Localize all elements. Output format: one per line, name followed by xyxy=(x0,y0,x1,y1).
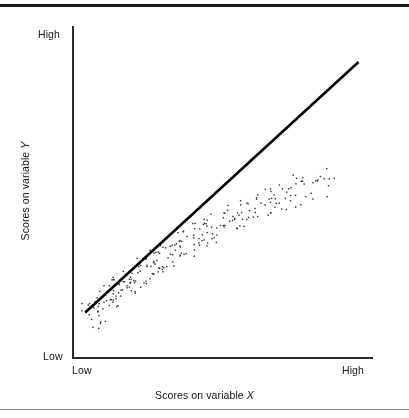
y-axis-title-variable: Y xyxy=(19,142,31,149)
y-axis-title-text: Scores on variable xyxy=(19,149,31,241)
bottom-divider-rule xyxy=(0,409,409,410)
y-axis-title: Scores on variable Y xyxy=(19,101,31,281)
y-axis-line xyxy=(72,26,74,359)
x-axis-line xyxy=(72,357,373,359)
x-axis-title-variable: X xyxy=(247,389,254,401)
y-axis-high-label: High xyxy=(38,28,60,40)
y-axis-low-label: Low xyxy=(43,350,63,362)
x-axis-low-label: Low xyxy=(72,364,92,376)
scatter-plot-figure: High Low Low High Scores on variable X S… xyxy=(0,0,409,418)
x-axis-title-text: Scores on variable xyxy=(155,389,247,401)
x-axis-high-label: High xyxy=(342,364,364,376)
x-axis-title: Scores on variable X xyxy=(0,389,409,401)
